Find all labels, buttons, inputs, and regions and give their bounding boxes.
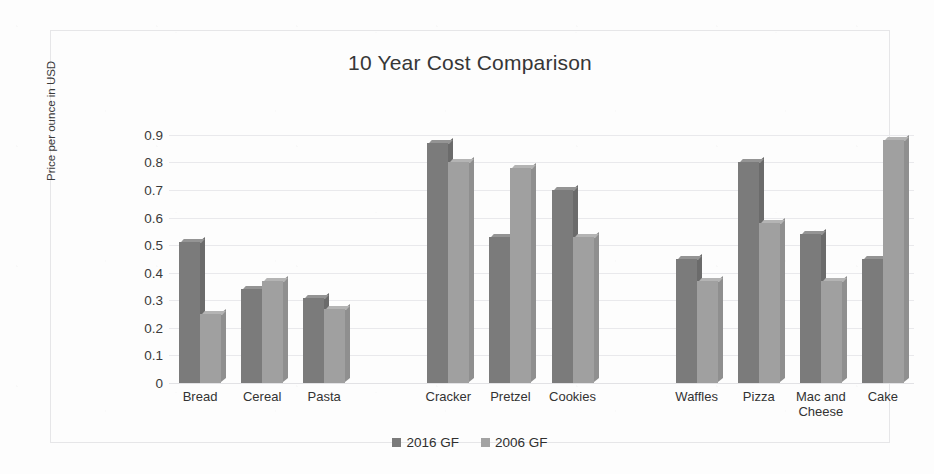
- bar-side-face: [594, 232, 599, 382]
- bar: [676, 259, 697, 383]
- bar-side-face: [221, 309, 226, 382]
- y-axis-tick-label: 0.3: [144, 293, 163, 308]
- bar-front-face: [862, 259, 883, 383]
- bar-front-face: [510, 168, 531, 383]
- y-axis-tick-label: 0: [155, 376, 163, 391]
- x-axis-label: Cookies: [541, 389, 603, 419]
- bar-group: [790, 121, 852, 383]
- bar-front-face: [676, 259, 697, 383]
- bar: [241, 289, 262, 383]
- bar: [200, 314, 221, 383]
- bar-front-face: [303, 298, 324, 383]
- gridline: [169, 383, 914, 384]
- bar: [303, 298, 324, 383]
- bar-front-face: [489, 237, 510, 383]
- bar-group-spacer: [355, 121, 417, 383]
- legend-swatch-icon: [481, 438, 490, 447]
- x-axis-label-empty: [355, 389, 417, 419]
- x-axis-label: Pizza: [728, 389, 790, 419]
- bar-side-face: [904, 135, 909, 382]
- chart-frame: 10 Year Cost Comparison Price per ounce …: [50, 30, 890, 443]
- bar-group: [666, 121, 728, 383]
- y-axis-tick-label: 0.8: [144, 155, 163, 170]
- bar: [262, 281, 283, 383]
- bar-group: [541, 121, 603, 383]
- bar: [510, 168, 531, 383]
- bar: [448, 162, 469, 383]
- bar: [800, 234, 821, 383]
- legend-item[interactable]: 2006 GF: [481, 435, 548, 450]
- bar: [573, 237, 594, 383]
- bar-front-face: [697, 281, 718, 383]
- bar-front-face: [883, 140, 904, 383]
- plot-area: [169, 121, 914, 383]
- x-axis-label: Pasta: [293, 389, 355, 419]
- chart-legend: 2016 GF2006 GF: [51, 435, 889, 450]
- bar: [552, 190, 573, 383]
- bar-group: [479, 121, 541, 383]
- x-axis-label: Cracker: [417, 389, 479, 419]
- x-axis-label: Mac and Cheese: [790, 389, 852, 419]
- bar: [489, 237, 510, 383]
- bar-front-face: [759, 223, 780, 383]
- bar-front-face: [427, 143, 448, 383]
- bar: [697, 281, 718, 383]
- bar: [862, 259, 883, 383]
- bar-front-face: [573, 237, 594, 383]
- bar-front-face: [241, 289, 262, 383]
- bar: [324, 309, 345, 383]
- bar-front-face: [800, 234, 821, 383]
- bar-side-face: [780, 218, 785, 382]
- bar: [883, 140, 904, 383]
- y-axis-tick-labels: 0.90.80.70.60.50.40.30.20.10: [111, 113, 163, 391]
- chart-page: 10 Year Cost Comparison Price per ounce …: [0, 0, 934, 474]
- bar-group: [169, 121, 231, 383]
- y-axis-title: Price per ounce in USD: [45, 61, 57, 181]
- bar: [759, 223, 780, 383]
- y-axis-tick-label: 0.5: [144, 238, 163, 253]
- bar-group-spacer: [604, 121, 666, 383]
- legend-label: 2006 GF: [495, 435, 548, 450]
- x-axis-label: Waffles: [666, 389, 728, 419]
- y-axis-tick-label: 0.2: [144, 320, 163, 335]
- x-axis-label: Pretzel: [479, 389, 541, 419]
- x-axis-label-empty: [604, 389, 666, 419]
- y-axis-tick-label: 0.1: [144, 348, 163, 363]
- bar-group: [417, 121, 479, 383]
- bar-side-face: [531, 163, 536, 382]
- bar-group: [852, 121, 914, 383]
- bar-front-face: [324, 309, 345, 383]
- bar-side-face: [718, 276, 723, 382]
- bar-front-face: [552, 190, 573, 383]
- x-axis-label: Bread: [169, 389, 231, 419]
- bar-front-face: [821, 281, 842, 383]
- bar-groups: [169, 121, 914, 383]
- y-axis-tick-label: 0.9: [144, 127, 163, 142]
- bar-group: [728, 121, 790, 383]
- bar-front-face: [179, 242, 200, 383]
- chart-title: 10 Year Cost Comparison: [51, 51, 889, 75]
- x-axis-category-labels: BreadCerealPastaCrackerPretzelCookiesWaf…: [169, 389, 914, 419]
- x-axis-label: Cake: [852, 389, 914, 419]
- bar-side-face: [345, 304, 350, 382]
- bar-front-face: [262, 281, 283, 383]
- bar-group: [293, 121, 355, 383]
- bar: [427, 143, 448, 383]
- bar-side-face: [842, 276, 847, 382]
- bar: [738, 162, 759, 383]
- legend-item[interactable]: 2016 GF: [392, 435, 459, 450]
- y-axis-tick-label: 0.4: [144, 265, 163, 280]
- bar-front-face: [448, 162, 469, 383]
- bar-front-face: [200, 314, 221, 383]
- bar: [821, 281, 842, 383]
- x-axis-label: Cereal: [231, 389, 293, 419]
- bar-side-face: [469, 157, 474, 382]
- bar-side-face: [283, 276, 288, 382]
- bar: [179, 242, 200, 383]
- y-axis-tick-label: 0.7: [144, 182, 163, 197]
- bar-group: [231, 121, 293, 383]
- y-axis-tick-label: 0.6: [144, 210, 163, 225]
- bar-front-face: [738, 162, 759, 383]
- legend-label: 2016 GF: [406, 435, 459, 450]
- legend-swatch-icon: [392, 438, 401, 447]
